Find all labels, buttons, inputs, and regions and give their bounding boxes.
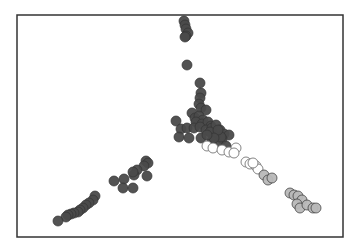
data-point [229,148,239,158]
data-point [208,143,218,153]
data-point [182,60,192,70]
data-point [180,32,190,42]
data-point [118,183,128,193]
data-point [267,173,277,183]
data-point [119,174,129,184]
data-point [128,167,138,177]
data-point [128,183,138,193]
data-point [202,130,212,140]
data-point [184,133,194,143]
data-point [53,216,63,226]
data-point [142,171,152,181]
data-point [109,176,119,186]
data-point [311,203,321,213]
data-point [248,158,258,168]
data-point [174,132,184,142]
data-point [195,78,205,88]
scatter-chart [0,0,357,249]
